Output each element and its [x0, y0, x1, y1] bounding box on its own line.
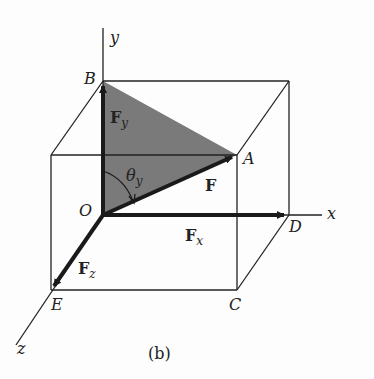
point-label-o: O — [79, 203, 92, 219]
point-label-e: E — [51, 297, 63, 313]
diagram-canvas — [0, 0, 374, 379]
point-label-b: B — [84, 71, 96, 87]
z-axis-label: z — [17, 341, 25, 357]
vector-label-f: F — [205, 178, 216, 194]
vectors — [54, 86, 284, 286]
figure-caption: (b) — [148, 346, 171, 362]
force-components-diagram: y x z B A O D E C Fy F Fx Fz θy (b) — [0, 0, 374, 379]
vector-label-fy: Fy — [110, 110, 128, 129]
x-axis-label: x — [327, 206, 336, 222]
point-label-a: A — [243, 151, 255, 167]
point-label-c: C — [229, 297, 241, 313]
point-label-d: D — [289, 219, 302, 235]
vector-label-fx: Fx — [185, 228, 203, 247]
y-axis-label: y — [110, 30, 119, 46]
angle-label-theta-y: θy — [126, 168, 142, 187]
vector-label-fz: Fz — [78, 261, 96, 280]
shaded-plane-OBA — [103, 81, 237, 215]
